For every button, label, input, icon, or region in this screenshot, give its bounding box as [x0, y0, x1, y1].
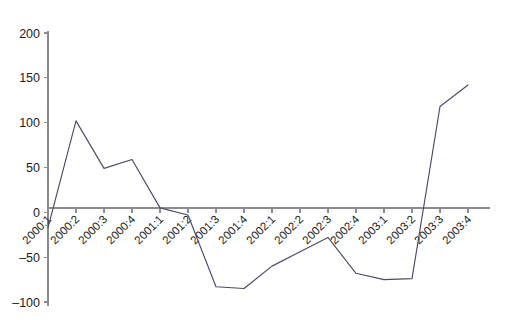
y-tick-label: 200 — [19, 27, 40, 41]
y-tick-label: 100 — [19, 116, 40, 130]
x-tick-label: 2001:1 — [132, 213, 165, 246]
x-tick-label: 2003:3 — [412, 213, 445, 246]
x-tick-label: 2000:4 — [104, 213, 138, 247]
x-axis-group: 2000:12000:22000:32000:42001:12001:22001… — [20, 208, 490, 246]
x-tick-label: 2001:4 — [216, 213, 250, 247]
y-tick-labels: 200150100500–50–100 — [12, 27, 40, 310]
x-tick-label: 2003:4 — [440, 213, 474, 247]
x-tick-label: 2003:1 — [356, 213, 389, 246]
x-tick-label: 2003:2 — [384, 213, 417, 246]
y-tick-label: 150 — [19, 71, 40, 85]
x-tick-label: 2002:4 — [328, 213, 362, 247]
y-tick-label: –50 — [19, 251, 40, 265]
y-tick-label: –100 — [12, 296, 40, 310]
x-tick-label: 2002:1 — [244, 213, 277, 246]
y-tick-label: 50 — [26, 161, 40, 175]
x-tick-marks — [48, 208, 468, 213]
line-chart: 200150100500–50–100 2000:12000:22000:320… — [0, 0, 530, 320]
chart-canvas: 200150100500–50–100 2000:12000:22000:320… — [0, 0, 530, 320]
plot-area — [48, 85, 468, 289]
x-tick-label: 2000:3 — [76, 213, 109, 246]
data-line-series-1 — [48, 85, 468, 289]
x-tick-label: 2001:2 — [160, 213, 193, 246]
x-tick-label: 2001:3 — [188, 213, 221, 246]
x-tick-label: 2000:2 — [48, 213, 81, 246]
y-axis-group: 200150100500–50–100 — [12, 27, 48, 310]
x-tick-label: 2002:3 — [300, 213, 333, 246]
x-tick-label: 2002:2 — [272, 213, 305, 246]
x-tick-labels: 2000:12000:22000:32000:42001:12001:22001… — [20, 213, 474, 247]
